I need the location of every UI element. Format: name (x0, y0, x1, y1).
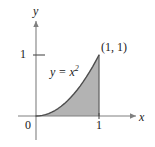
curve-equation-exponent: 2 (75, 64, 79, 73)
x-axis-arrow-icon (130, 113, 136, 118)
curve-equation-base: y = x (50, 65, 75, 79)
y-axis-label: y (33, 5, 38, 17)
figure-parabola-area: y x 1 1 0 y = x2 (1, 1) (0, 0, 155, 147)
x-tick-label-1: 1 (96, 119, 102, 131)
origin-label: 0 (25, 119, 31, 131)
point-coordinate-label: (1, 1) (101, 41, 127, 53)
y-tick-label-1: 1 (20, 48, 26, 60)
x-axis-label: x (139, 111, 144, 123)
curve-equation-label: y = x2 (50, 66, 79, 78)
y-axis-arrow-icon (33, 21, 38, 27)
